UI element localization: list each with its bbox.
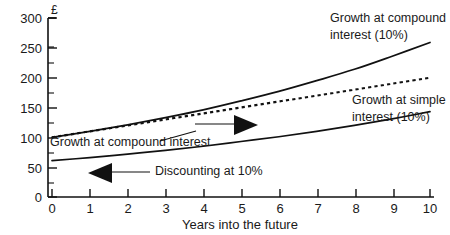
annotation-compound-right-line1: Growth at compound bbox=[330, 11, 446, 25]
x-tick-label-0: 0 bbox=[48, 201, 55, 216]
x-tick-label-1: 1 bbox=[86, 201, 93, 216]
x-tick-label-5: 5 bbox=[238, 201, 245, 216]
x-tick-label-2: 2 bbox=[124, 201, 131, 216]
annotation-compound-right-line2: interest (10%) bbox=[330, 28, 408, 42]
annotation-compound-right: Growth at compound interest (10%) bbox=[330, 11, 446, 42]
arrow-growth-right-icon bbox=[195, 115, 258, 135]
annotation-compound-left: Growth at compound interest bbox=[50, 135, 211, 149]
chart-svg: 300 250 200 150 100 50 0 £ 0 1 bbox=[0, 0, 450, 235]
x-tick-label-10: 10 bbox=[423, 201, 437, 216]
y-tick-labels-group: 300 250 200 150 100 50 0 bbox=[20, 11, 42, 205]
y-tick-label-100: 100 bbox=[20, 131, 42, 146]
y-tick-label-300: 300 bbox=[20, 11, 42, 26]
x-tick-label-6: 6 bbox=[276, 201, 283, 216]
y-tick-label-150: 150 bbox=[20, 101, 42, 116]
x-tick-label-4: 4 bbox=[200, 201, 207, 216]
y-tick-label-0: 0 bbox=[35, 190, 42, 205]
x-tick-label-8: 8 bbox=[352, 201, 359, 216]
x-ticks-group bbox=[52, 189, 430, 197]
arrow-discount-left-icon bbox=[88, 163, 150, 183]
x-tick-label-9: 9 bbox=[390, 201, 397, 216]
y-tick-label-250: 250 bbox=[20, 41, 42, 56]
y-ticks-group bbox=[48, 18, 57, 197]
chart-container: 300 250 200 150 100 50 0 £ 0 1 bbox=[0, 0, 450, 235]
annotation-discounting: Discounting at 10% bbox=[155, 164, 263, 178]
y-tick-label-200: 200 bbox=[20, 71, 42, 86]
annotation-simple-right-line1: Growth at simple bbox=[352, 93, 446, 107]
x-tick-label-3: 3 bbox=[162, 201, 169, 216]
annotation-simple-right: Growth at simple interest (10%) bbox=[352, 93, 446, 124]
y-tick-label-50: 50 bbox=[28, 161, 42, 176]
x-axis-title: Years into the future bbox=[182, 217, 298, 232]
annotation-simple-right-line2: interest (10%) bbox=[352, 110, 430, 124]
x-tick-label-7: 7 bbox=[314, 201, 321, 216]
x-tick-labels-group: 0 1 2 3 4 5 6 7 8 9 10 bbox=[48, 201, 437, 216]
y-axis-unit-label: £ bbox=[51, 3, 58, 17]
